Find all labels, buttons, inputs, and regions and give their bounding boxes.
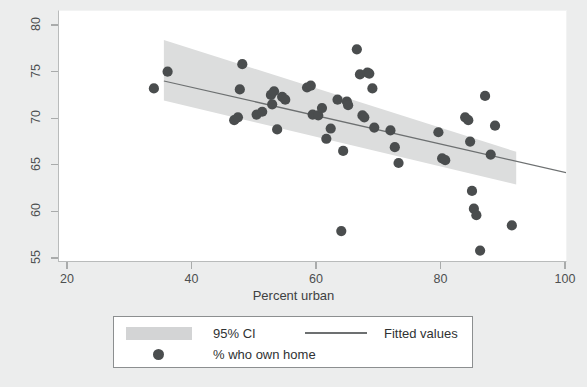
scatter-point [471,210,481,220]
x-tick-mark [191,262,192,269]
y-tick-mark [51,257,58,258]
scatter-point [490,121,500,131]
scatter-point [480,91,490,101]
scatter-point [338,146,348,156]
scatter-point [390,142,400,152]
x-tick-mark [66,262,67,269]
scatter-point [343,100,353,110]
scatter-point [257,107,267,117]
scatter-point [332,95,342,105]
y-tick-mark [51,71,58,72]
scatter-point [463,115,473,125]
y-tick-label: 80 [29,9,43,39]
x-tick-mark [315,262,316,269]
scatter-point [467,186,477,196]
scatter-point [237,59,247,69]
scatter-point [393,158,403,168]
scatter-point [475,246,485,256]
scatter-point [465,136,475,146]
scatter-point [507,220,517,230]
y-tick-label: 75 [29,56,43,86]
scatter-point [267,99,277,109]
legend-item-own-home: % who own home [153,341,316,367]
x-tick-label: 60 [296,272,336,286]
legend-item-fitted: Fitted values [305,320,458,346]
x-tick-label: 20 [47,272,87,286]
x-tick-label: 40 [172,272,212,286]
y-tick-mark [51,164,58,165]
x-tick-label: 100 [545,272,585,286]
ci-band-swatch-icon [126,327,192,340]
legend-label-fitted: Fitted values [384,326,458,341]
y-tick-mark [51,211,58,212]
confidence-interval-band [164,40,516,184]
scatter-point [235,84,245,94]
y-tick-mark [51,118,58,119]
scatter-point [359,112,369,122]
y-tick-label: 55 [29,242,43,272]
scatter-point [336,226,346,236]
scatter-point [367,83,377,93]
scatter-point [326,123,336,133]
scatter-point [321,134,331,144]
x-tick-mark [440,262,441,269]
scatter-point [440,155,450,165]
scatter-point [317,103,327,113]
scatter-point [352,44,362,54]
y-tick-label: 70 [29,102,43,132]
y-tick-label: 65 [29,149,43,179]
plot-area [58,10,567,262]
scatter-point [364,68,374,78]
scatter-point [280,95,290,105]
x-tick-mark [564,262,565,269]
fitted-line-swatch-icon [305,332,367,333]
chart-canvas: 556065707580 20406080100 Percent urban 9… [0,0,587,387]
x-tick-label: 80 [421,272,461,286]
scatter-point [149,83,159,93]
x-axis-title: Percent urban [0,288,587,303]
scatter-point [486,150,496,160]
y-tick-label: 60 [29,195,43,225]
plot-svg [59,11,567,262]
legend-label-own-home: % who own home [213,347,316,362]
legend-label-ci: 95% CI [213,326,256,341]
scatter-point [272,124,282,134]
scatter-point [163,67,173,77]
scatter-point [369,122,379,132]
scatter-point [233,112,243,122]
scatter-point [306,81,316,91]
scatter-dot-swatch-icon [153,349,164,360]
chart-legend: 95% CI Fitted values % who own home [113,316,473,368]
scatter-point [433,127,443,137]
y-tick-mark [51,24,58,25]
scatter-point [385,125,395,135]
ci-band-polygon [164,40,516,184]
